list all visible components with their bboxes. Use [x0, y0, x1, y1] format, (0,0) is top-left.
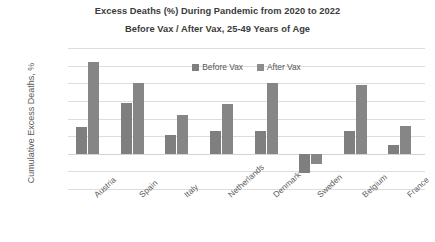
bar: [267, 83, 278, 154]
excess-deaths-bar-chart: Excess Deaths (%) During Pandemic from 2…: [0, 0, 435, 242]
bar-group: [202, 48, 247, 189]
bar-group: [157, 48, 202, 189]
bar: [222, 104, 233, 153]
bar: [76, 127, 87, 153]
bar-group: [113, 48, 158, 189]
bar: [356, 85, 367, 154]
bar-group: [291, 48, 336, 189]
bar: [177, 115, 188, 154]
bar: [121, 103, 132, 154]
bar: [299, 154, 310, 173]
bar: [344, 131, 355, 154]
bar-group: [68, 48, 113, 189]
bar: [400, 126, 411, 154]
bar: [210, 131, 221, 154]
chart-subtitle: Before Vax / After Vax, 25-49 Years of A…: [0, 24, 435, 34]
y-axis-title: Cumulative Excess Deaths, %: [26, 43, 36, 203]
bar: [388, 145, 399, 154]
bar: [311, 154, 322, 165]
bar-group: [380, 48, 425, 189]
bar: [255, 131, 266, 154]
bar: [133, 83, 144, 154]
bars-layer: [68, 48, 425, 189]
plot-area: 30%25%20%15%10%5%0%-5%-10% Before VaxAft…: [68, 48, 425, 189]
x-axis-tick-labels: AustriaSpainItalyNetherlandsDenmarkSwede…: [68, 190, 425, 240]
bar-group: [336, 48, 381, 189]
bar: [88, 62, 99, 154]
bar: [165, 135, 176, 154]
chart-title: Excess Deaths (%) During Pandemic from 2…: [0, 6, 435, 16]
